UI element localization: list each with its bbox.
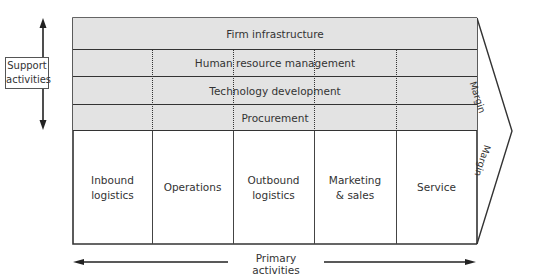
support-row-procurement: Procurement (73, 104, 477, 131)
primary-operations: Operations (152, 131, 233, 244)
row-label: Procurement (241, 112, 308, 124)
dotted-divider (152, 49, 153, 131)
column-label: Inbound logistics (91, 173, 134, 203)
column-label: Operations (164, 180, 222, 195)
column-label: Marketing & sales (329, 173, 381, 203)
row-label: Human resource management (195, 57, 355, 69)
support-row-technology-development: Technology development (73, 76, 477, 104)
support-row-firm-infrastructure: Firm infrastructure (73, 18, 477, 49)
primary-marketing-sales: Marketing & sales (314, 131, 396, 244)
column-label: Service (417, 180, 456, 195)
primary-inbound-logistics: Inbound logistics (73, 131, 152, 244)
primary-outbound-logistics: Outbound logistics (233, 131, 314, 244)
primary-service: Service (396, 131, 477, 244)
support-row-human-resource-management: Human resource management (73, 49, 477, 76)
row-label: Firm infrastructure (226, 28, 324, 40)
dotted-divider (396, 49, 397, 131)
primary-activities-label: Primary activities (231, 252, 321, 276)
column-label: Outbound logistics (247, 173, 299, 203)
row-label: Technology development (209, 85, 340, 97)
support-activities-label: Support activities (5, 57, 49, 89)
